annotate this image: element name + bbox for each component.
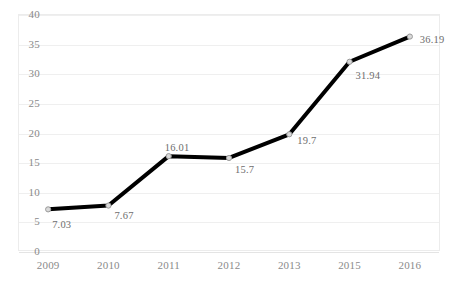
data-point-label: 36.19 xyxy=(420,34,445,45)
data-point-label: 16.01 xyxy=(165,142,190,153)
line-chart: 0510152025303540 20092010201120122013201… xyxy=(0,0,457,299)
data-label-layer: 7.037.6716.0115.719.731.9436.19 xyxy=(0,0,457,299)
data-point-label: 15.7 xyxy=(235,164,254,175)
data-point-label: 7.67 xyxy=(114,210,133,221)
data-point-label: 19.7 xyxy=(297,135,316,146)
data-point-label: 31.94 xyxy=(356,70,381,81)
data-point-label: 7.03 xyxy=(52,219,71,230)
